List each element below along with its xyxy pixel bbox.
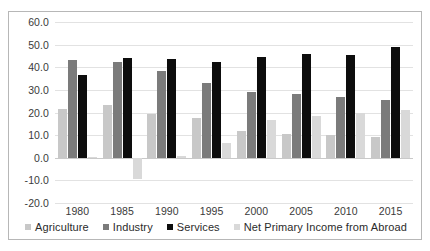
bar-group — [279, 22, 324, 203]
bar[interactable] — [177, 156, 186, 158]
bar-slot — [78, 22, 87, 203]
plot-area — [55, 22, 413, 203]
bar[interactable] — [267, 120, 276, 157]
bar[interactable] — [88, 157, 97, 158]
bar-slot — [177, 22, 186, 203]
bar-slot — [88, 22, 97, 203]
bar-slot — [123, 22, 132, 203]
bar-group-bars — [279, 22, 324, 203]
bar[interactable] — [157, 71, 166, 158]
y-axis-tick-label: 40.0 — [28, 61, 49, 73]
bar-slot — [371, 22, 380, 203]
bar[interactable] — [371, 137, 380, 157]
bar[interactable] — [282, 134, 291, 158]
bar[interactable] — [192, 118, 201, 158]
bar[interactable] — [68, 60, 77, 157]
bar[interactable] — [401, 110, 410, 158]
bar[interactable] — [103, 105, 112, 158]
bar[interactable] — [346, 55, 355, 158]
legend-item[interactable]: Net Primary Income from Abroad — [234, 221, 407, 233]
bar-slot — [282, 22, 291, 203]
bar[interactable] — [58, 109, 67, 158]
bar-slot — [292, 22, 301, 203]
bar-slot — [147, 22, 156, 203]
bar[interactable] — [78, 75, 87, 158]
bar[interactable] — [147, 114, 156, 158]
bar-group-bars — [55, 22, 100, 203]
bar-slot — [103, 22, 112, 203]
bar-slot — [157, 22, 166, 203]
bar[interactable] — [381, 100, 390, 158]
bar-group — [324, 22, 369, 203]
bar-slot — [346, 22, 355, 203]
y-axis-tick-label: 10.0 — [28, 129, 49, 141]
bar[interactable] — [202, 83, 211, 158]
bar[interactable] — [133, 158, 142, 179]
y-axis-tick-label: -20.0 — [25, 197, 49, 209]
legend-item[interactable]: Industry — [103, 221, 153, 233]
bar-slot — [391, 22, 400, 203]
gridline — [55, 203, 413, 204]
bar-group — [189, 22, 234, 203]
bar-group — [368, 22, 413, 203]
legend-swatch-icon — [234, 224, 240, 230]
bar-slot — [381, 22, 390, 203]
y-axis-tick-label: 60.0 — [28, 16, 49, 28]
bar[interactable] — [257, 57, 266, 158]
bar-group-bars — [234, 22, 279, 203]
legend-label: Agriculture — [35, 221, 89, 233]
legend-item[interactable]: Agriculture — [25, 221, 89, 233]
bar[interactable] — [356, 113, 365, 158]
bar[interactable] — [326, 135, 335, 158]
bar-group-bars — [145, 22, 190, 203]
bar-slot — [326, 22, 335, 203]
bar-slot — [336, 22, 345, 203]
bar-slot — [257, 22, 266, 203]
bar-slot — [222, 22, 231, 203]
legend-swatch-icon — [25, 224, 31, 230]
bar[interactable] — [167, 59, 176, 157]
bar-slot — [247, 22, 256, 203]
y-axis-tick-label: 20.0 — [28, 107, 49, 119]
legend-label: Net Primary Income from Abroad — [244, 221, 407, 233]
bar-slot — [312, 22, 321, 203]
bar-slot — [133, 22, 142, 203]
bar-slot — [267, 22, 276, 203]
bar-slot — [68, 22, 77, 203]
bar[interactable] — [247, 92, 256, 158]
y-axis-tick-label: 50.0 — [28, 39, 49, 51]
bar[interactable] — [391, 47, 400, 158]
bar[interactable] — [302, 54, 311, 158]
bar[interactable] — [123, 58, 132, 158]
legend-label: Industry — [113, 221, 153, 233]
bar-slot — [202, 22, 211, 203]
bar-group-bars — [368, 22, 413, 203]
bar[interactable] — [113, 62, 122, 158]
bar[interactable] — [237, 131, 246, 158]
bar-group-bars — [100, 22, 145, 203]
bar-slot — [356, 22, 365, 203]
bar[interactable] — [336, 97, 345, 158]
chart-legend: AgricultureIndustryServicesNet Primary I… — [21, 217, 411, 237]
bar-slot — [192, 22, 201, 203]
bar-group — [145, 22, 190, 203]
bar-slot — [302, 22, 311, 203]
chart-frame: 60.050.040.030.020.010.00.0-10.0-20.0 19… — [8, 11, 422, 240]
legend-label: Services — [177, 221, 220, 233]
bar-slot — [401, 22, 410, 203]
bar-group-bars — [189, 22, 234, 203]
bar-groups — [55, 22, 413, 203]
bar[interactable] — [292, 94, 301, 157]
bar-slot — [167, 22, 176, 203]
y-axis-tick-label: 30.0 — [28, 84, 49, 96]
bar[interactable] — [212, 62, 221, 158]
y-axis-labels: 60.050.040.030.020.010.00.0-10.0-20.0 — [9, 22, 53, 203]
bar-slot — [212, 22, 221, 203]
legend-item[interactable]: Services — [167, 221, 220, 233]
bar[interactable] — [312, 116, 321, 158]
y-axis-tick-label: -10.0 — [25, 174, 49, 186]
chart-container: 60.050.040.030.020.010.00.0-10.0-20.0 19… — [0, 0, 430, 251]
bar-slot — [237, 22, 246, 203]
bar-slot — [113, 22, 122, 203]
bar[interactable] — [222, 143, 231, 158]
